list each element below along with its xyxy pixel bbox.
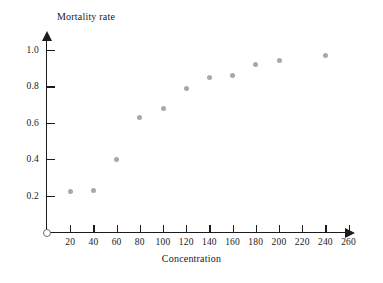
x-tick xyxy=(325,225,326,232)
data-point xyxy=(161,106,166,111)
data-point xyxy=(91,188,96,193)
x-tick xyxy=(349,225,350,232)
y-tick-label: 0.6 xyxy=(9,118,39,128)
data-point xyxy=(253,62,258,67)
y-tick-label: 0.2 xyxy=(9,191,39,201)
data-point xyxy=(323,53,328,58)
y-axis-arrow-icon xyxy=(42,31,52,41)
x-tick xyxy=(233,225,234,232)
data-point xyxy=(68,189,73,194)
x-tick xyxy=(140,225,141,232)
y-tick-label: 1.0 xyxy=(9,45,39,55)
x-axis-line xyxy=(47,232,347,233)
data-point xyxy=(114,157,119,162)
scatter-chart: Mortality rate 2040608010012014016018020… xyxy=(0,0,383,283)
y-tick xyxy=(47,123,55,124)
y-axis-line xyxy=(46,40,47,233)
y-axis-title: Mortality rate xyxy=(57,10,115,23)
y-tick-label: 0.4 xyxy=(9,154,39,164)
x-tick xyxy=(70,225,71,232)
data-point xyxy=(277,58,282,63)
y-tick-label: 0.8 xyxy=(9,81,39,91)
x-tick xyxy=(302,225,303,232)
y-tick xyxy=(47,159,55,160)
data-point xyxy=(137,115,142,120)
x-tick-label: 260 xyxy=(332,236,366,248)
x-tick xyxy=(93,225,94,232)
y-tick xyxy=(47,50,55,51)
x-tick xyxy=(117,225,118,232)
x-tick xyxy=(186,225,187,232)
x-tick xyxy=(256,225,257,232)
x-tick xyxy=(279,225,280,232)
origin-marker xyxy=(43,229,51,237)
y-tick xyxy=(47,196,55,197)
x-tick xyxy=(209,225,210,232)
x-tick xyxy=(163,225,164,232)
data-point xyxy=(230,73,235,78)
x-axis-title: Concentration xyxy=(0,252,383,265)
y-tick xyxy=(47,86,55,87)
data-point xyxy=(207,75,212,80)
data-point xyxy=(184,86,189,91)
